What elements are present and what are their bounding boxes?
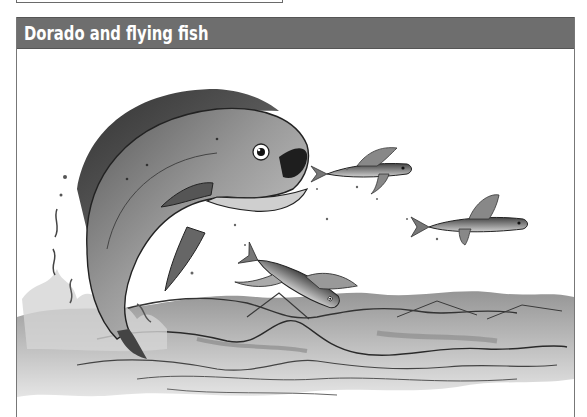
figure-title: Dorado and flying fish [24,21,208,45]
previous-figure-frame [16,0,283,3]
dorado-illustration [17,49,574,417]
flying-fish-1 [311,148,412,194]
flying-fish-2 [411,195,528,245]
figure-header: Dorado and flying fish [17,17,574,49]
figure-panel: Dorado and flying fish [16,17,575,417]
